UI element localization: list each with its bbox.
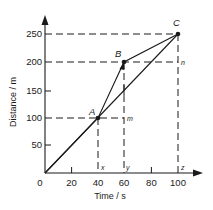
svg-text:100: 100	[170, 177, 186, 188]
point-b	[122, 60, 127, 65]
x-axis-arrow-icon	[193, 170, 203, 177]
point-a	[96, 116, 101, 121]
distance-time-chart: A B C x y z m n 250 200 150 100 50 0 20 …	[0, 0, 213, 210]
label-b: B	[115, 48, 122, 59]
label-a: A	[88, 106, 95, 117]
svg-text:40: 40	[93, 177, 104, 188]
svg-text:20: 20	[66, 177, 77, 188]
svg-text:200: 200	[26, 56, 42, 67]
label-n: n	[181, 59, 185, 66]
svg-text:60: 60	[119, 177, 130, 188]
svg-text:100: 100	[26, 112, 42, 123]
axes	[45, 20, 198, 173]
label-m: m	[127, 115, 133, 122]
svg-text:250: 250	[26, 28, 42, 39]
svg-text:150: 150	[26, 85, 42, 96]
line-oc	[45, 34, 178, 173]
label-c: C	[173, 17, 180, 28]
label-z: z	[180, 164, 185, 171]
y-axis-title: Distance / m	[8, 77, 18, 127]
label-x: x	[100, 164, 105, 171]
data-lines	[45, 34, 178, 173]
svg-text:80: 80	[146, 177, 157, 188]
x-ticks	[72, 167, 152, 173]
svg-text:0: 0	[37, 177, 42, 188]
point-c	[176, 32, 181, 37]
label-y: y	[125, 164, 130, 172]
x-axis-title: Time / s	[94, 191, 126, 201]
y-tick-labels: 250 200 150 100 50	[26, 28, 42, 150]
svg-text:50: 50	[31, 139, 42, 150]
y-axis-arrow-icon	[42, 15, 49, 25]
x-tick-labels: 0 20 40 60 80 100	[37, 177, 186, 188]
